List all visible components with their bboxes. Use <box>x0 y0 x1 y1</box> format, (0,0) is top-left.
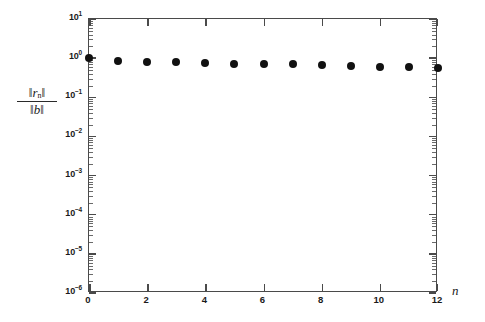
y-axis-minor-tick <box>432 203 436 204</box>
y-axis-minor-tick <box>432 187 436 188</box>
x-axis-tick-label: 6 <box>260 294 265 305</box>
data-point <box>318 61 326 69</box>
data-point <box>230 60 238 68</box>
y-axis-minor-tick <box>432 60 436 61</box>
y-axis-minor-tick <box>432 39 436 40</box>
y-axis-minor-tick <box>432 274 436 275</box>
y-axis-tick-label: 100 <box>52 51 82 61</box>
y-axis-minor-tick <box>432 219 436 220</box>
x-axis-major-tick <box>89 284 91 291</box>
y-axis-minor-tick <box>432 164 436 165</box>
y-axis-minor-tick <box>89 145 93 146</box>
x-axis-major-tick <box>380 19 382 26</box>
y-axis-minor-tick <box>89 86 93 87</box>
y-axis-minor-tick <box>89 106 93 107</box>
y-axis-minor-tick <box>89 203 93 204</box>
y-axis-minor-tick <box>89 242 93 243</box>
y-axis-minor-tick <box>89 281 93 282</box>
x-axis-tick-label: 0 <box>85 294 90 305</box>
y-axis-major-tick <box>429 136 436 138</box>
y-axis-minor-tick <box>89 260 93 261</box>
y-axis-minor-tick <box>432 106 436 107</box>
y-axis-minor-tick <box>432 46 436 47</box>
y-axis-minor-tick <box>432 152 436 153</box>
y-axis-minor-tick <box>432 226 436 227</box>
x-axis-major-tick <box>437 19 439 26</box>
y-axis-minor-tick <box>89 125 93 126</box>
y-axis-minor-tick <box>432 28 436 29</box>
y-axis-minor-tick <box>89 138 93 139</box>
y-axis-minor-tick <box>432 138 436 139</box>
y-axis-minor-tick <box>432 281 436 282</box>
y-axis-tick-label: 101 <box>52 12 82 22</box>
y-axis-minor-tick <box>89 28 93 29</box>
y-axis-minor-tick <box>432 221 436 222</box>
y-axis-minor-tick <box>89 74 93 75</box>
data-point <box>405 63 413 71</box>
y-axis-major-tick <box>89 253 96 255</box>
y-axis-minor-tick <box>432 25 436 26</box>
y-axis-minor-tick <box>432 258 436 259</box>
y-axis-minor-tick <box>432 113 436 114</box>
y-axis-minor-tick <box>432 179 436 180</box>
y-axis-minor-tick <box>432 118 436 119</box>
x-axis-tick-label: 8 <box>318 294 323 305</box>
x-axis-major-tick <box>437 284 439 291</box>
y-axis-minor-tick <box>89 103 93 104</box>
y-axis-minor-tick <box>432 177 436 178</box>
y-axis-minor-tick <box>89 274 93 275</box>
x-axis-major-tick <box>205 19 207 26</box>
y-axis-minor-tick <box>432 191 436 192</box>
x-axis-tick-label: 4 <box>202 294 207 305</box>
y-axis-minor-tick <box>89 164 93 165</box>
y-axis-minor-tick <box>432 196 436 197</box>
y-axis-minor-tick <box>432 74 436 75</box>
y-axis-minor-tick <box>432 142 436 143</box>
y-axis-minor-tick <box>89 235 93 236</box>
y-axis-minor-tick <box>89 35 93 36</box>
y-axis-major-tick <box>89 214 96 216</box>
y-axis-minor-tick <box>432 230 436 231</box>
y-axis-minor-tick <box>432 235 436 236</box>
data-point <box>347 62 355 70</box>
y-axis-minor-tick <box>89 113 93 114</box>
x-axis-major-tick <box>147 19 149 26</box>
x-axis-title: n <box>452 283 459 299</box>
data-point <box>289 60 297 68</box>
y-axis-minor-tick <box>432 23 436 24</box>
x-axis-major-tick <box>380 284 382 291</box>
y-axis-tick-label: 10−5 <box>52 247 82 257</box>
y-axis-minor-tick <box>89 266 93 267</box>
y-axis-major-tick <box>429 18 436 20</box>
y-axis-minor-tick <box>89 79 93 80</box>
y-axis-minor-tick <box>432 140 436 141</box>
y-axis-minor-tick <box>89 196 93 197</box>
y-axis-minor-tick <box>432 157 436 158</box>
y-axis-major-tick <box>429 57 436 59</box>
y-axis-minor-tick <box>432 109 436 110</box>
y-axis-minor-tick <box>89 157 93 158</box>
y-axis-minor-tick <box>89 67 93 68</box>
y-axis-minor-tick <box>432 148 436 149</box>
data-point <box>172 58 180 66</box>
y-axis-minor-tick <box>432 79 436 80</box>
y-axis-minor-tick <box>432 145 436 146</box>
y-axis-minor-tick <box>432 263 436 264</box>
x-axis-major-tick <box>322 284 324 291</box>
y-axis-minor-tick <box>89 263 93 264</box>
y-axis-minor-tick <box>89 148 93 149</box>
y-axis-minor-tick <box>89 258 93 259</box>
y-axis-minor-tick <box>89 191 93 192</box>
y-axis-minor-tick <box>432 182 436 183</box>
y-axis-minor-tick <box>89 62 93 63</box>
x-axis-tick-label: 12 <box>432 294 443 305</box>
y-axis-minor-tick <box>432 21 436 22</box>
y-axis-minor-tick <box>89 109 93 110</box>
y-axis-tick-label: 10−3 <box>52 169 82 179</box>
y-axis-minor-tick <box>89 182 93 183</box>
y-axis-minor-tick <box>89 99 93 100</box>
y-axis-minor-tick <box>432 31 436 32</box>
y-axis-major-tick <box>429 253 436 255</box>
y-axis-minor-tick <box>89 152 93 153</box>
y-axis-minor-tick <box>89 221 93 222</box>
